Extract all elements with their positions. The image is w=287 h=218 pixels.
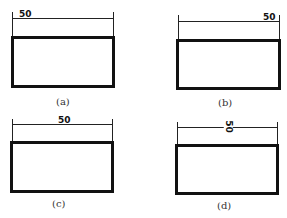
rectangle xyxy=(176,39,281,90)
dimension-text: 50 xyxy=(263,13,276,22)
extension-line-right xyxy=(113,12,114,38)
extension-line-left xyxy=(12,12,13,38)
extension-line-left xyxy=(12,119,13,142)
rectangle xyxy=(10,141,114,193)
extension-line-right xyxy=(279,15,280,41)
rectangle xyxy=(175,144,279,195)
figure-caption: (a) xyxy=(56,96,70,107)
figure-caption: (b) xyxy=(218,97,232,108)
extension-line-left xyxy=(178,15,179,41)
dimension-text: 50 xyxy=(58,116,71,125)
figure-caption: (c) xyxy=(52,198,65,209)
dimension-text: 50 xyxy=(224,119,233,134)
dimension-text: 50 xyxy=(19,10,32,19)
rectangle xyxy=(11,36,115,88)
extension-line-right xyxy=(112,119,113,142)
figure-caption: (d) xyxy=(217,200,231,211)
